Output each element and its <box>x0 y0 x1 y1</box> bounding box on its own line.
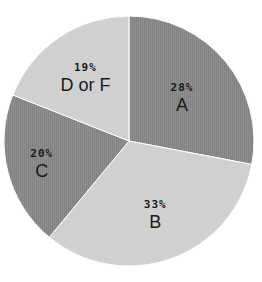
slice-category-label: B <box>149 212 161 232</box>
slice-category-label: A <box>176 95 188 115</box>
slice-percent-label: 33% <box>144 198 167 211</box>
slice-percent-label: 20% <box>30 147 53 160</box>
pie-chart: 28%A33%B20%C19%D or F <box>0 0 262 282</box>
pie-slices <box>4 16 254 266</box>
slice-category-label: D or F <box>60 75 110 95</box>
slice-category-label: C <box>35 161 48 181</box>
slice-percent-label: 28% <box>171 81 194 94</box>
slice-percent-label: 19% <box>74 61 97 74</box>
